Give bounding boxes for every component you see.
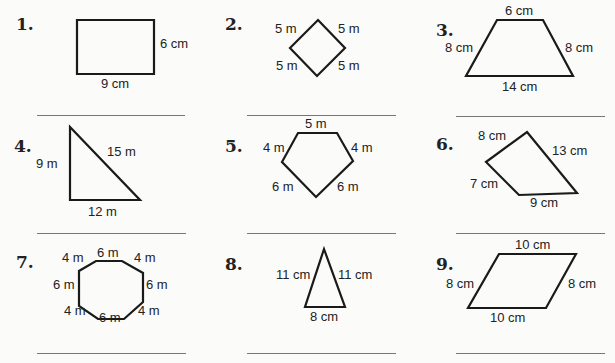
- side-label: 6 cm: [505, 3, 533, 18]
- side-label: 6 m: [53, 277, 75, 292]
- side-label: 4 m: [64, 303, 86, 318]
- rectangle-shape: [77, 20, 154, 74]
- problem-number-9: 9.: [436, 254, 454, 274]
- side-label: 5 m: [275, 21, 297, 36]
- answer-line-1[interactable]: [37, 115, 185, 116]
- square-shape: [290, 20, 345, 76]
- side-label: 8 cm: [568, 276, 596, 291]
- side-label: 6 m: [337, 179, 359, 194]
- side-label: 8 cm: [310, 309, 338, 324]
- problem-number-8: 8.: [225, 254, 243, 274]
- side-label: 6 m: [99, 310, 121, 325]
- side-label: 8 cm: [478, 128, 506, 143]
- side-label: 4 m: [134, 250, 156, 265]
- answer-line-8[interactable]: [247, 353, 396, 354]
- side-label: 11 cm: [338, 267, 372, 282]
- side-label: 4 m: [138, 303, 160, 318]
- side-label: 5 m: [276, 58, 298, 73]
- problem-number-6: 6.: [436, 134, 454, 154]
- side-label: 6 m: [272, 179, 294, 194]
- side-label: 5 m: [338, 58, 360, 73]
- parallelogram-shape: [468, 254, 576, 308]
- problem-number-4: 4.: [14, 136, 32, 156]
- side-label: 4 m: [263, 140, 285, 155]
- side-label: 9 cm: [530, 195, 558, 210]
- problem-number-2: 2.: [225, 14, 243, 34]
- side-label: 14 cm: [502, 79, 537, 94]
- side-label: 6 cm: [160, 36, 188, 51]
- side-label: 15 m: [107, 144, 136, 159]
- answer-line-5[interactable]: [247, 233, 396, 234]
- side-label: 6 m: [146, 277, 168, 292]
- side-label: 7 cm: [470, 176, 498, 191]
- problem-number-5: 5.: [225, 136, 243, 156]
- problem-number-3: 3.: [436, 20, 454, 40]
- right-triangle-shape: [70, 127, 140, 200]
- side-label: 12 m: [88, 204, 117, 219]
- side-label: 8 cm: [446, 276, 474, 291]
- problem-number-1: 1.: [16, 14, 34, 34]
- answer-line-4[interactable]: [37, 233, 186, 234]
- side-label: 13 cm: [552, 143, 587, 158]
- side-label: 4 m: [351, 140, 373, 155]
- answer-line-3[interactable]: [456, 116, 605, 117]
- answer-line-7[interactable]: [37, 353, 186, 354]
- answer-line-9[interactable]: [456, 353, 605, 354]
- side-label: 5 m: [305, 116, 327, 131]
- problem-number-7: 7.: [16, 252, 34, 272]
- figures: [0, 0, 615, 363]
- trapezoid-shape: [466, 20, 573, 76]
- side-label: 9 cm: [101, 76, 129, 91]
- side-label: 10 cm: [490, 310, 525, 325]
- side-label: 5 m: [338, 21, 360, 36]
- side-label: 4 m: [62, 250, 84, 265]
- side-label: 6 m: [97, 245, 119, 260]
- side-label: 11 cm: [276, 267, 310, 282]
- side-label: 10 cm: [515, 237, 550, 252]
- side-label: 9 m: [36, 156, 58, 171]
- side-label: 8 cm: [445, 40, 473, 55]
- answer-line-6[interactable]: [456, 233, 605, 234]
- side-label: 8 cm: [565, 40, 593, 55]
